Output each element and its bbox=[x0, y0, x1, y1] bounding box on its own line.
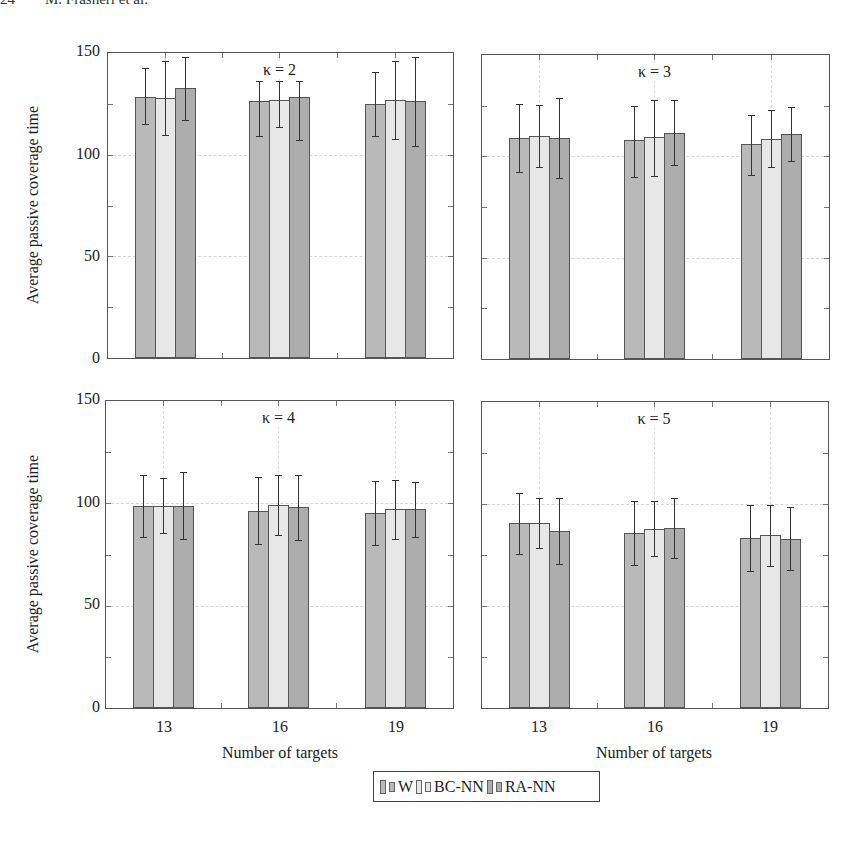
error-bar-cap bbox=[768, 167, 775, 168]
error-bar-cap bbox=[140, 537, 147, 538]
error-bar-cap bbox=[142, 124, 149, 125]
y-tick-mark bbox=[824, 308, 829, 309]
error-bar-cap bbox=[295, 540, 302, 541]
x-tick-mark bbox=[654, 402, 655, 407]
y-tick-mark bbox=[824, 258, 829, 259]
y-tick-mark bbox=[482, 606, 487, 607]
error-bar bbox=[163, 478, 164, 533]
ytick-label-50-bottom: 50 bbox=[60, 595, 100, 613]
y-tick-mark bbox=[482, 207, 487, 208]
x-tick-mark bbox=[395, 53, 396, 58]
y-tick-mark bbox=[106, 657, 111, 658]
y-tick-mark bbox=[108, 206, 113, 207]
x-tick-mark bbox=[597, 703, 598, 708]
error-bar-cap bbox=[275, 475, 282, 476]
error-bar-cap bbox=[412, 57, 419, 58]
error-bar-cap bbox=[516, 493, 523, 494]
ytick-label-0-top: 0 bbox=[60, 349, 100, 367]
error-bar-cap bbox=[182, 120, 189, 121]
error-bar-cap bbox=[160, 478, 167, 479]
error-bar bbox=[145, 68, 146, 124]
running-header: 24 M. Frasheri et al. bbox=[0, 0, 148, 8]
chart-panel-kappa-2: κ = 2 bbox=[107, 52, 454, 359]
x-tick-mark bbox=[597, 55, 598, 60]
x-tick-mark bbox=[597, 354, 598, 359]
y-tick-mark bbox=[448, 452, 453, 453]
y-tick-mark bbox=[482, 258, 487, 259]
y-tick-mark bbox=[823, 606, 828, 607]
error-bar bbox=[654, 501, 655, 556]
x-tick-mark bbox=[770, 402, 771, 407]
y-tick-mark bbox=[448, 104, 453, 105]
x-tick-mark bbox=[771, 55, 772, 60]
legend-item-bc-nn: BC-NN bbox=[416, 778, 484, 796]
x-tick-mark bbox=[539, 402, 540, 407]
y-tick-mark bbox=[106, 503, 111, 504]
error-bar-cap bbox=[651, 176, 658, 177]
x-tick-mark bbox=[163, 401, 164, 406]
error-bar bbox=[259, 81, 260, 136]
y-tick-mark bbox=[482, 453, 487, 454]
error-bar-cap bbox=[631, 501, 638, 502]
error-bar-cap bbox=[556, 98, 563, 99]
y-tick-mark bbox=[448, 555, 453, 556]
error-bar-cap bbox=[747, 505, 754, 506]
bar-w-13 bbox=[135, 97, 156, 358]
error-bar bbox=[395, 61, 396, 139]
y-tick-mark bbox=[448, 307, 453, 308]
error-bar-cap bbox=[256, 136, 263, 137]
panel-title-kappa: κ = 4 bbox=[259, 409, 298, 427]
error-bar bbox=[751, 115, 752, 175]
error-bar-cap bbox=[372, 72, 379, 73]
y-tick-mark bbox=[482, 308, 487, 309]
error-bar bbox=[165, 61, 166, 135]
xtick-label-13-left: 13 bbox=[156, 718, 172, 736]
error-bar-cap bbox=[412, 146, 419, 147]
legend-label-bc-nn: BC-NN bbox=[434, 778, 484, 796]
xtick-label-19-left: 19 bbox=[388, 718, 404, 736]
error-bar-cap bbox=[392, 139, 399, 140]
y-tick-mark bbox=[482, 657, 487, 658]
x-tick-mark bbox=[539, 55, 540, 60]
error-bar-cap bbox=[392, 539, 399, 540]
error-bar bbox=[791, 107, 792, 161]
error-bar-cap bbox=[631, 106, 638, 107]
y-tick-mark bbox=[448, 606, 453, 607]
y-tick-mark bbox=[106, 606, 111, 607]
panel-title-kappa: κ = 3 bbox=[635, 63, 674, 81]
y-tick-mark bbox=[108, 256, 113, 257]
error-bar-cap bbox=[767, 566, 774, 567]
error-bar-cap bbox=[787, 570, 794, 571]
legend-item-ra-nn: RA-NN bbox=[487, 778, 556, 796]
error-bar-cap bbox=[788, 107, 795, 108]
error-bar-cap bbox=[372, 136, 379, 137]
error-bar-cap bbox=[412, 537, 419, 538]
error-bar-cap bbox=[671, 165, 678, 166]
bar-w-16 bbox=[249, 101, 270, 358]
error-bar-cap bbox=[651, 501, 658, 502]
y-tick-mark bbox=[823, 555, 828, 556]
error-bar-cap bbox=[556, 498, 563, 499]
legend-swatch-ra-nn-small-icon bbox=[496, 782, 502, 792]
y-axis-title-top: Average passive coverage time bbox=[24, 55, 42, 355]
error-bar-cap bbox=[631, 565, 638, 566]
legend-label-ra-nn: RA-NN bbox=[505, 778, 556, 796]
error-bar bbox=[771, 110, 772, 168]
error-bar-cap bbox=[392, 61, 399, 62]
error-bar bbox=[674, 100, 675, 165]
x-tick-mark bbox=[597, 402, 598, 407]
error-bar-cap bbox=[556, 564, 563, 565]
xtick-label-13-right: 13 bbox=[531, 718, 547, 736]
legend-swatch-ra-nn-icon bbox=[487, 780, 493, 794]
chart-panel-kappa-3: κ = 3 bbox=[481, 54, 830, 360]
error-bar-cap bbox=[276, 81, 283, 82]
error-bar bbox=[375, 72, 376, 136]
error-bar bbox=[559, 498, 560, 564]
bar-bc-nn-13 bbox=[529, 136, 550, 359]
error-bar-cap bbox=[748, 115, 755, 116]
y-tick-mark bbox=[448, 657, 453, 658]
error-bar-cap bbox=[276, 127, 283, 128]
error-bar-cap bbox=[162, 61, 169, 62]
x-tick-mark bbox=[712, 354, 713, 359]
ytick-label-100-top: 100 bbox=[60, 145, 100, 163]
